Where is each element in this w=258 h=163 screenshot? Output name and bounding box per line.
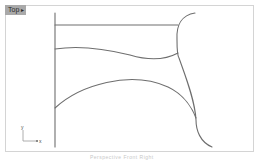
curve-right-boundary[interactable]: [177, 13, 212, 147]
viewport-tab-label: Top: [8, 5, 19, 15]
curve-lower-arc[interactable]: [55, 80, 196, 118]
axis-y-label: y: [21, 124, 24, 130]
viewport-status-text: Perspective Front Right: [90, 154, 175, 160]
dropdown-arrow-icon[interactable]: ▸: [21, 5, 24, 15]
axis-icon: [23, 130, 37, 141]
curve-middle-upper[interactable]: [55, 48, 178, 59]
axis-x-label: x: [39, 138, 42, 144]
viewport-tab-top[interactable]: Top ▸: [5, 5, 26, 15]
